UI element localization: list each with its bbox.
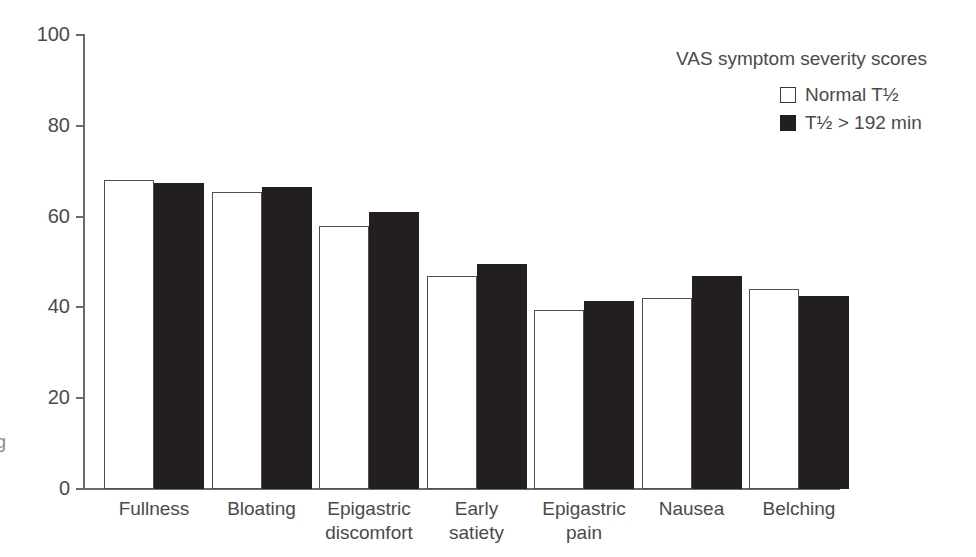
legend-items: Normal T½T½ > 192 min [676, 84, 966, 134]
chart-legend: VAS symptom severity scores Normal T½T½ … [676, 48, 966, 140]
bar-normal [104, 180, 154, 489]
bar-group [427, 35, 527, 489]
y-axis-tick [76, 34, 85, 36]
legend-item: Normal T½ [780, 84, 966, 106]
bar-normal [534, 310, 584, 489]
y-axis-tick-label: 0 [10, 478, 70, 498]
bar-delayed [154, 183, 204, 489]
bar-delayed [262, 187, 312, 489]
bar-delayed [799, 296, 849, 489]
bar-normal [642, 298, 692, 489]
y-axis-tick-label: 40 [10, 296, 70, 316]
y-axis-tick [76, 216, 85, 218]
bar-group [212, 35, 312, 489]
y-axis-tick-label: 20 [10, 387, 70, 407]
cropped-axis-label: g [0, 432, 26, 453]
bar-normal [212, 192, 262, 489]
x-axis-category-label: Belching [724, 497, 874, 521]
bar-delayed [369, 212, 419, 489]
y-axis-tick [76, 488, 85, 490]
legend-swatch-icon [780, 115, 796, 131]
bar-delayed [584, 301, 634, 489]
legend-item-label: Normal T½ [805, 84, 899, 106]
bar-group [319, 35, 419, 489]
legend-swatch-icon [780, 87, 796, 103]
bar-normal [319, 226, 369, 489]
bar-group [104, 35, 204, 489]
y-axis-tick [76, 306, 85, 308]
legend-item: T½ > 192 min [780, 112, 966, 134]
chart-figure: g 100806040200 FullnessBloatingEpigastri… [0, 0, 976, 557]
bar-delayed [692, 276, 742, 489]
y-axis-tick-label: 80 [10, 115, 70, 135]
bar-normal [427, 276, 477, 489]
bar-delayed [477, 264, 527, 489]
y-axis-tick [76, 125, 85, 127]
bar-normal [749, 289, 799, 489]
y-axis-tick-label: 100 [10, 24, 70, 44]
legend-item-label: T½ > 192 min [805, 112, 922, 134]
y-axis-tick-label: 60 [10, 206, 70, 226]
y-axis-tick [76, 397, 85, 399]
bar-group [534, 35, 634, 489]
legend-title: VAS symptom severity scores [676, 48, 966, 70]
